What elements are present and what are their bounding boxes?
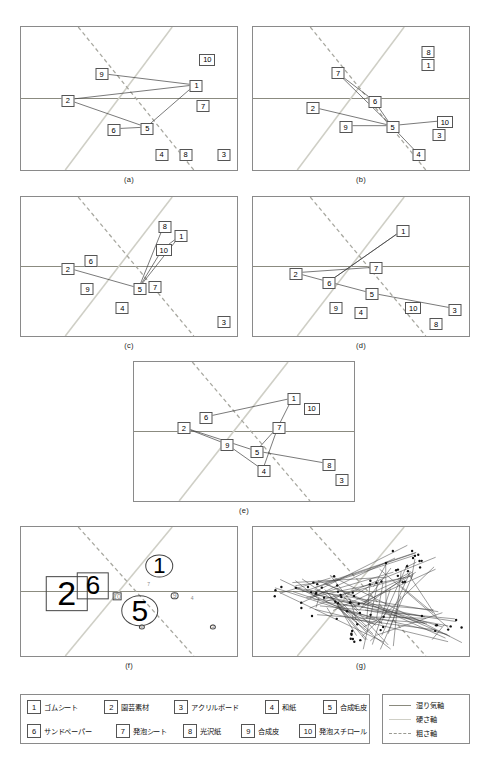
- hardness-axis-label: 硬さ軸: [416, 714, 437, 724]
- material-node-10: 10: [113, 593, 122, 600]
- material-node-9: 9: [221, 439, 234, 451]
- panel-b: 76259104813: [252, 26, 470, 171]
- hardness-line-swatch: [389, 719, 411, 720]
- overlay-point: [379, 629, 381, 631]
- overlay-point: [300, 601, 302, 603]
- overlay-point: [449, 625, 451, 627]
- panel-caption-f: (f): [109, 661, 149, 670]
- panel-caption-b: (b): [341, 175, 381, 184]
- material-node-3: 3: [448, 304, 461, 316]
- material-node-10: 10: [156, 244, 172, 256]
- overlay-point: [418, 560, 420, 562]
- overlay-point: [280, 586, 282, 588]
- legend-number-5: 5: [323, 700, 337, 714]
- legend-label-10: 発泡スチロール: [319, 726, 367, 736]
- overlay-point: [382, 616, 384, 618]
- panel-caption-d: (d): [341, 341, 381, 350]
- material-node-5: 5: [121, 595, 159, 627]
- roughness-axis-label: 粗さ軸: [416, 728, 437, 738]
- overlay-point: [358, 603, 360, 605]
- legend-item-5: 5合成毛皮: [323, 700, 367, 714]
- legend-item-8: 8光沢紙: [183, 724, 239, 738]
- overlay-edge: [363, 572, 416, 603]
- legend-number-10: 10: [299, 724, 316, 738]
- legend-number-8: 8: [183, 724, 197, 738]
- overlay-point: [351, 630, 353, 632]
- overlay-point: [349, 601, 351, 603]
- legend-item-9: 9合成皮: [241, 724, 297, 738]
- overlay-point: [316, 583, 318, 585]
- overlay-point: [274, 595, 276, 597]
- overlay-point: [395, 569, 397, 571]
- overlay-edge: [432, 625, 444, 640]
- overlay-edge: [316, 597, 319, 607]
- overlay-point: [300, 607, 302, 609]
- material-node-1: 1: [175, 230, 188, 242]
- material-node-6: 6: [323, 277, 336, 289]
- legend-label-7: 発泡シート: [133, 726, 167, 736]
- overlay-point: [421, 615, 423, 617]
- overlay-point: [359, 612, 361, 614]
- material-node-1: 1: [287, 393, 300, 405]
- material-node-8: 8: [179, 149, 192, 161]
- material-node-10: 10: [437, 116, 453, 128]
- legend-label-6: サンドペーパー: [44, 726, 92, 736]
- material-node-7: 7: [273, 422, 286, 434]
- overlay-point: [352, 638, 354, 640]
- panel-g: [252, 526, 470, 657]
- panel-caption-e: (e): [224, 506, 264, 515]
- legend-label-2: 園芸素材: [121, 702, 148, 712]
- material-legend: 1ゴムシート2園芸素材3アクリルボード4和紙5合成毛皮 6サンドペーパー7発泡シ…: [20, 694, 370, 744]
- overlay-point: [460, 626, 462, 628]
- legend-item-3: 3アクリルボード: [174, 700, 263, 714]
- overlay-point: [307, 586, 309, 588]
- overlay-edge: [372, 589, 390, 645]
- overlay-point: [350, 632, 352, 634]
- overlay-point: [337, 590, 339, 592]
- material-node-7: 7: [370, 262, 383, 274]
- panel-f: 26511097483: [20, 526, 238, 657]
- overlay-edge: [320, 606, 455, 619]
- material-node-6: 6: [77, 572, 110, 599]
- overlay-point: [435, 624, 437, 626]
- overlay-point: [420, 560, 422, 562]
- legend-number-9: 9: [241, 724, 255, 738]
- link-line: [67, 100, 146, 127]
- overlay-point: [311, 615, 313, 617]
- material-node-1: 1: [146, 555, 174, 578]
- legend-item-2: 2園芸素材: [104, 700, 172, 714]
- overlay-point: [315, 592, 317, 594]
- legend-label-4: 和紙: [282, 702, 296, 712]
- overlay-point: [419, 566, 421, 568]
- material-node-6: 6: [84, 255, 97, 267]
- overlay-point: [274, 589, 276, 591]
- material-node-6: 6: [200, 412, 213, 424]
- legend-label-8: 光沢紙: [200, 726, 220, 736]
- legend-item-10: 10発泡スチロール: [299, 724, 367, 738]
- panel-c: 81102657943: [20, 196, 238, 337]
- panel-e: 11062795483: [133, 361, 355, 502]
- overlay-point: [339, 594, 341, 596]
- material-node-3: 3: [217, 316, 230, 328]
- material-node-5: 5: [365, 288, 378, 300]
- moisture-line-swatch: [389, 705, 411, 706]
- overlay-point: [359, 639, 361, 641]
- material-node-10: 10: [304, 403, 320, 415]
- material-node-5: 5: [141, 123, 154, 135]
- legend-item-4: 4和紙: [265, 700, 321, 714]
- link-line: [67, 268, 138, 288]
- overlay-point: [353, 641, 355, 643]
- axis-legend-hardness: 硬さ軸: [389, 712, 469, 726]
- material-node-8: 8: [430, 318, 443, 330]
- overlay-point: [380, 580, 382, 582]
- material-node-2: 2: [177, 422, 190, 434]
- material-node-1: 1: [422, 59, 435, 71]
- material-node-2: 2: [61, 263, 74, 275]
- material-node-4: 4: [354, 307, 367, 319]
- material-node-7: 7: [145, 582, 151, 587]
- overlay-point: [447, 628, 449, 630]
- overlay-point: [434, 630, 436, 632]
- link-line: [67, 85, 194, 100]
- overlay-point: [369, 580, 371, 582]
- overlay-point: [455, 619, 457, 621]
